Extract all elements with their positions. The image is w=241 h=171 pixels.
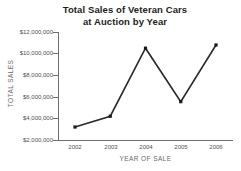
series-line-total-sales	[75, 45, 216, 127]
data-series-layer	[0, 0, 241, 171]
data-point-2005	[179, 100, 182, 103]
data-point-2003	[109, 115, 112, 118]
line-chart: Total Sales of Veteran Cars at Auction b…	[0, 0, 241, 171]
data-point-2004	[144, 47, 147, 50]
data-point-2006	[214, 43, 217, 46]
data-point-2002	[73, 125, 76, 128]
series-markers	[73, 43, 217, 128]
